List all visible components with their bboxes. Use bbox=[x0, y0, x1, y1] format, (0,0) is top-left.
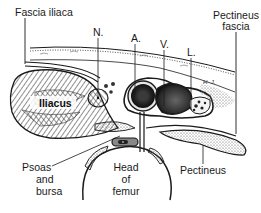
femoral-vein bbox=[156, 83, 192, 114]
iliopectineal-septum bbox=[140, 112, 144, 152]
label-nerve: N. bbox=[93, 27, 104, 38]
label-iliacus: Iliacus bbox=[39, 97, 72, 109]
label-head-line2: of bbox=[104, 174, 148, 185]
artist-signature: H. J. bbox=[203, 79, 215, 85]
lymphatic-canal bbox=[190, 97, 211, 114]
label-psoas-line2: and bbox=[36, 174, 54, 185]
femoral-artery bbox=[128, 81, 158, 111]
label-vein: V. bbox=[160, 39, 169, 50]
label-pectineus: Pectineus bbox=[180, 165, 226, 176]
label-psoas-line1: Psoas bbox=[22, 162, 51, 173]
label-head-line1: Head bbox=[104, 162, 148, 173]
label-lymphatic: L. bbox=[187, 47, 196, 58]
label-fascia-iliaca: Fascia iliaca bbox=[15, 7, 73, 18]
pectineus-muscle bbox=[146, 125, 246, 155]
label-head-line3: femur bbox=[104, 186, 148, 197]
label-psoas-line3: bursa bbox=[36, 186, 62, 197]
label-artery: A. bbox=[131, 33, 141, 44]
label-pectineus-fascia-line2: fascia bbox=[210, 21, 261, 32]
